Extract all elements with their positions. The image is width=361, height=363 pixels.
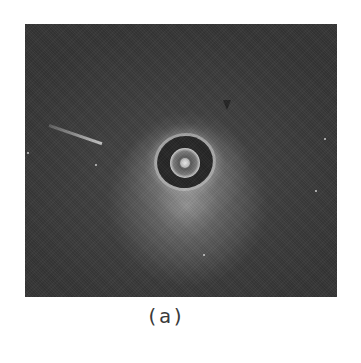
- figure: (a): [0, 0, 361, 363]
- noise-texture: [25, 24, 337, 297]
- panel-label: (a): [0, 304, 331, 328]
- cross-section-image: [25, 24, 337, 297]
